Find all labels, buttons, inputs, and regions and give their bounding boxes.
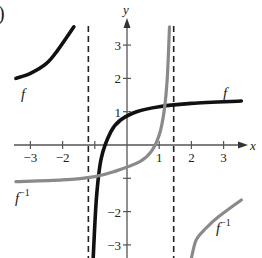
- label-f-left: f: [21, 86, 27, 102]
- curve-f: [16, 27, 74, 79]
- curves: [16, 27, 241, 258]
- x-tick-label: 3: [220, 150, 227, 165]
- x-axis-label: x: [249, 138, 256, 153]
- label-f-right: f: [223, 85, 229, 101]
- curve-f-inverse: [16, 27, 170, 182]
- y-tick-label: 1: [115, 105, 122, 120]
- label-finv-left-sup: −1: [19, 187, 30, 198]
- y-axis-arrow-icon: [124, 18, 131, 28]
- panel-label: ): [0, 2, 5, 25]
- asymptotes: [88, 26, 173, 258]
- label-finv-right-sup: −1: [220, 217, 231, 228]
- function-inverse-graph: ) −3−2123−3−2123 x y f f f−1 f−1: [0, 0, 262, 258]
- label-finv-right: f−1: [216, 217, 231, 236]
- y-tick-label: −2: [107, 205, 121, 220]
- y-tick-label: −3: [107, 238, 121, 253]
- label-finv-left: f−1: [15, 187, 30, 206]
- y-tick-label: 3: [115, 38, 122, 53]
- x-tick-label: 1: [156, 150, 163, 165]
- x-tick-label: 2: [188, 150, 195, 165]
- y-axis-label: y: [121, 2, 129, 17]
- x-tick-label: −2: [56, 150, 70, 165]
- y-tick-label: 2: [115, 71, 122, 86]
- x-axis-arrow-icon: [238, 142, 248, 149]
- x-tick-label: −3: [23, 150, 37, 165]
